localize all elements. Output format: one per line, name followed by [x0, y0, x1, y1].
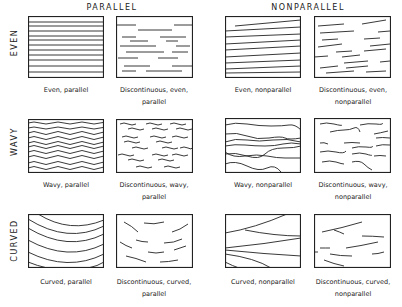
- panel-disc-wavy-parallel: [116, 119, 193, 173]
- caption-disc-wavy-nonparallel-1: Discontinuous, wavy,: [303, 179, 402, 191]
- caption-disc-even-parallel-1: Discontinuous, even,: [104, 84, 204, 96]
- panel-disc-curved-parallel: [116, 214, 193, 268]
- row-header-curved: CURVED: [10, 211, 19, 271]
- panel-disc-even-parallel: [116, 16, 193, 78]
- panel-disc-wavy-nonparallel: [314, 118, 391, 173]
- caption-even-nonparallel: Even, nonparallel: [213, 84, 313, 96]
- panel-disc-curved-nonparallel: [314, 214, 391, 268]
- row-header-wavy: WAVY: [10, 112, 19, 172]
- caption-disc-even-nonparallel-1: Discontinuous, even,: [303, 84, 402, 96]
- caption-curved-parallel: Curved, parallel: [16, 276, 116, 288]
- column-header-nonparallel: NONPARALLEL: [248, 3, 368, 12]
- panel-disc-even-nonparallel: [314, 16, 391, 78]
- caption-disc-wavy-parallel-2: parallel: [104, 191, 204, 203]
- column-header-parallel: PARALLEL: [52, 3, 172, 12]
- caption-wavy-nonparallel: Wavy, nonparallel: [213, 179, 313, 191]
- caption-disc-even-nonparallel-2: nonparallel: [303, 96, 402, 108]
- panel-even-nonparallel: [225, 16, 301, 78]
- caption-disc-curved-parallel-1: Discontinuous, curved,: [104, 276, 204, 288]
- caption-disc-curved-parallel-2: parallel: [104, 288, 204, 300]
- caption-disc-curved-nonparallel-2: nonparallel: [303, 288, 402, 300]
- caption-wavy-parallel: Wavy, parallel: [16, 179, 116, 191]
- panel-wavy-parallel: [28, 119, 104, 173]
- caption-disc-curved-nonparallel-1: Discontinuous, curved,: [303, 276, 402, 288]
- caption-even-parallel: Even, parallel: [16, 84, 116, 96]
- caption-curved-nonparallel: Curved, nonparallel: [213, 276, 313, 288]
- panel-curved-parallel: [28, 214, 104, 268]
- row-header-even: EVEN: [10, 13, 19, 73]
- panel-wavy-nonparallel: [225, 118, 301, 173]
- panel-curved-nonparallel: [225, 214, 301, 268]
- caption-disc-wavy-parallel-1: Discontinuous, wavy,: [104, 179, 204, 191]
- panel-even-parallel: [28, 16, 104, 78]
- caption-disc-even-parallel-2: parallel: [104, 96, 204, 108]
- caption-disc-wavy-nonparallel-2: nonparallel: [303, 191, 402, 203]
